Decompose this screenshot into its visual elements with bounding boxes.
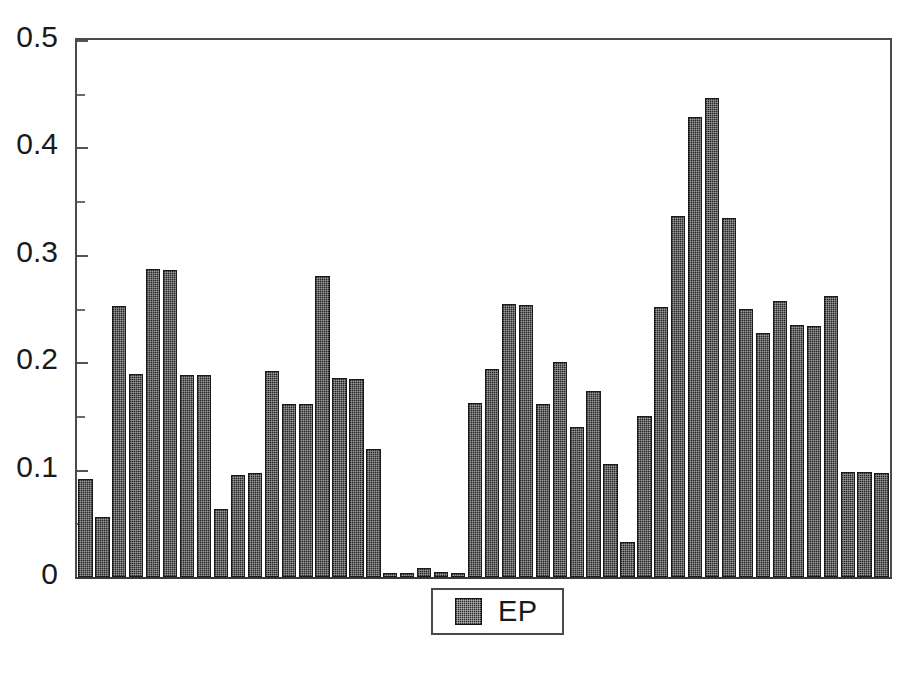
bar-chart: 0.50.40.30.20.10 EP (0, 0, 916, 673)
bar (78, 479, 92, 577)
legend-swatch-ep (455, 598, 482, 625)
bar (536, 404, 550, 577)
y-axis: 0.50.40.30.20.10 (0, 0, 68, 673)
bar (383, 573, 397, 577)
bar (349, 379, 363, 577)
bar (857, 472, 871, 577)
y-axis-tick-label: 0.3 (16, 237, 58, 267)
bar (671, 216, 685, 577)
bar (586, 391, 600, 577)
bar (180, 375, 194, 577)
bar (553, 362, 567, 577)
y-axis-tick-label: 0.5 (16, 22, 58, 52)
bar (654, 307, 668, 577)
bar (756, 333, 770, 577)
bar (248, 473, 262, 577)
bar (570, 427, 584, 577)
bar (688, 117, 702, 577)
bar (451, 573, 465, 577)
bar (400, 573, 414, 577)
legend: EP (431, 588, 564, 635)
bar (705, 98, 719, 577)
bar (332, 378, 346, 577)
bar (214, 509, 228, 577)
bar (231, 475, 245, 577)
bar (773, 301, 787, 577)
bar (519, 305, 533, 577)
plot-area (75, 38, 892, 579)
legend-label-ep: EP (498, 597, 538, 626)
bar (468, 403, 482, 577)
bar (807, 326, 821, 577)
bar (790, 325, 804, 577)
bar (265, 371, 279, 577)
bar (112, 306, 126, 577)
bar (299, 404, 313, 577)
y-axis-tick-label: 0.4 (16, 129, 58, 159)
bar (197, 375, 211, 577)
bar (637, 416, 651, 577)
bar (874, 473, 888, 577)
bar (163, 270, 177, 577)
bar (282, 404, 296, 577)
bar (315, 276, 329, 577)
bar (95, 517, 109, 577)
bar (366, 449, 380, 577)
y-axis-tick-label: 0 (41, 559, 58, 589)
bar-series-ep (77, 40, 890, 577)
bar (502, 304, 516, 577)
bar (485, 369, 499, 577)
bar (603, 464, 617, 577)
y-axis-tick-label: 0.2 (16, 344, 58, 374)
bar (434, 572, 448, 577)
bar (739, 309, 753, 578)
bar (722, 218, 736, 577)
bar (620, 542, 634, 577)
y-axis-tick-label: 0.1 (16, 452, 58, 482)
bar (824, 296, 838, 577)
bar (417, 568, 431, 577)
bar (146, 269, 160, 577)
bar (841, 472, 855, 577)
bar (129, 374, 143, 577)
